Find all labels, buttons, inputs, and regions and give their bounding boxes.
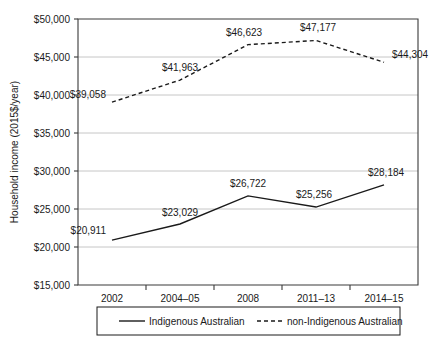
data-point-label: $44,304 (392, 49, 429, 60)
y-tick-label: $40,000 (34, 90, 71, 101)
legend: Indigenous Australiannon-Indigenous Aust… (97, 307, 403, 335)
x-tick-label: 2014–15 (365, 293, 404, 304)
line-chart: $15,000$20,000$25,000$30,000$35,000$40,0… (0, 0, 441, 348)
y-tick-label: $45,000 (34, 52, 71, 63)
series-line (112, 185, 384, 240)
plot-frame (78, 19, 418, 285)
y-tick-label: $35,000 (34, 128, 71, 139)
gridlines (78, 57, 418, 247)
data-point-label: $25,256 (296, 189, 333, 200)
x-tick-label: 2002 (101, 293, 124, 304)
data-point-label: $23,029 (162, 207, 199, 218)
x-tick-label: 2011–13 (297, 293, 336, 304)
y-tick-label: $15,000 (34, 280, 71, 291)
data-point-label: $39,058 (70, 89, 107, 100)
data-point-label: $47,177 (300, 22, 337, 33)
data-point-label: $28,184 (368, 167, 405, 178)
legend-label: Indigenous Australian (149, 316, 245, 327)
data-point-label: $41,963 (162, 62, 199, 73)
y-axis-title: Household income (2015$/year) (9, 81, 20, 223)
y-tick-label: $30,000 (34, 166, 71, 177)
y-tick-label: $20,000 (34, 242, 71, 253)
plot-border (78, 19, 418, 285)
legend-label: non-Indigenous Australian (287, 316, 403, 327)
data-point-label: $26,722 (230, 178, 267, 189)
data-point-label: $46,623 (226, 27, 263, 38)
series-line (112, 40, 384, 102)
data-point-labels: $20,911$23,029$26,722$25,256$28,184$39,0… (70, 22, 429, 236)
y-tick-label: $50,000 (34, 14, 71, 25)
x-axis: 20022004–0520082011–132014–15 (101, 285, 404, 304)
data-point-label: $20,911 (71, 225, 107, 236)
x-tick-label: 2008 (237, 293, 260, 304)
chart-container: $15,000$20,000$25,000$30,000$35,000$40,0… (0, 0, 441, 348)
x-tick-label: 2004–05 (161, 293, 200, 304)
series-lines (112, 40, 384, 240)
y-tick-label: $25,000 (34, 204, 71, 215)
y-axis: $15,000$20,000$25,000$30,000$35,000$40,0… (34, 14, 78, 291)
